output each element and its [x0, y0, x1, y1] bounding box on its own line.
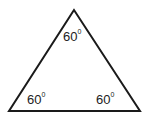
degree-mark: 0 [110, 91, 114, 98]
angle-value: 60 [63, 29, 77, 44]
angle-value: 60 [27, 92, 41, 107]
degree-mark: 0 [41, 91, 45, 98]
angle-label-bottom-right: 600 [96, 93, 114, 106]
degree-mark: 0 [77, 28, 81, 35]
triangle-figure [0, 0, 149, 119]
angle-value: 60 [96, 92, 110, 107]
angle-label-bottom-left: 600 [27, 93, 45, 106]
angle-label-top: 600 [63, 30, 81, 43]
